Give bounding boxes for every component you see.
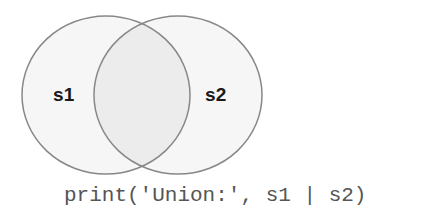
set-label-s2: s2 — [205, 85, 227, 104]
set-label-s1: s1 — [53, 85, 75, 104]
code-snippet: print('Union:', s1 | s2) — [64, 184, 366, 208]
